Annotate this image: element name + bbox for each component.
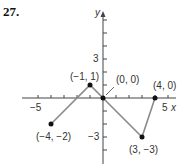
label-p1: (−4, −2)	[36, 131, 71, 142]
y-ticks	[103, 20, 107, 150]
y-axis-arrow-icon	[101, 11, 106, 17]
label-p4: (3, −3)	[129, 144, 158, 155]
chart: (−4, −2) (−1, 1) (0, 0) (3, −3) (4, 0) −…	[0, 0, 186, 167]
y-axis-label: y	[94, 7, 101, 18]
label-p3: (0, 0)	[116, 74, 139, 85]
point-neg1-1	[88, 83, 93, 88]
point-4-0	[153, 96, 158, 101]
ytick-label-neg3: −3	[88, 131, 100, 142]
origin-label-pointer	[106, 87, 114, 95]
xtick-label-neg5: −5	[30, 102, 42, 113]
point-0-0	[101, 96, 106, 101]
label-p2: (−1, 1)	[70, 71, 99, 82]
label-p5: (4, 0)	[153, 80, 176, 91]
point-neg4-neg2	[49, 122, 54, 127]
x-axis-label: x	[170, 102, 177, 113]
ytick-label-3: 3	[93, 53, 99, 64]
xtick-label-5: 5	[162, 102, 168, 113]
point-3-neg3	[140, 135, 145, 140]
